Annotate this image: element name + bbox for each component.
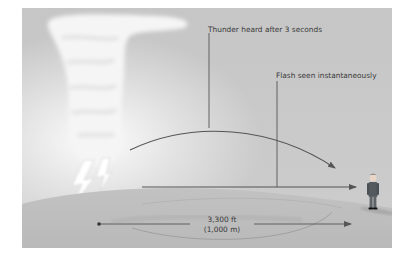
- distance-meters: (1,000 m): [204, 225, 241, 234]
- flash-label: Flash seen instantaneously: [276, 71, 377, 80]
- diagram-canvas: Thunder heard after 3 seconds Flash seen…: [22, 8, 392, 248]
- thunder-label: Thunder heard after 3 seconds: [207, 25, 322, 34]
- distance-feet: 3,300 ft: [208, 215, 237, 224]
- diagram-panel: Thunder heard after 3 seconds Flash seen…: [22, 8, 392, 248]
